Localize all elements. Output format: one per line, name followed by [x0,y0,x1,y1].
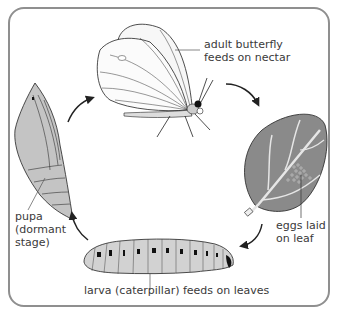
arrow-eggs-to-larva [242,224,262,246]
larva-label: larva (caterpillar) feeds on leaves [84,284,269,297]
arrow-pupa-to-adult [68,98,92,122]
eggs-label-line-2: on leaf [276,232,326,245]
larva-label-line-1: larva (caterpillar) feeds on leaves [84,284,269,297]
adult-label-line-2: feeds on nectar [204,51,290,64]
pupa-label-line-2: (dormant [15,223,66,236]
pupa-label-line-1: pupa [15,210,66,223]
pupa-label-line-3: stage) [15,236,66,249]
adult-label-line-1: adult butterfly [204,38,290,51]
larva-caterpillar-illustration [84,239,233,274]
pupa-chrysalis-illustration [15,83,73,220]
arrow-larva-to-pupa [72,214,88,240]
eggs-label-line-1: eggs laid [276,219,326,232]
adult-butterfly-illustration [97,24,213,137]
pupa-label: pupa (dormant stage) [15,210,66,249]
adult-label: adult butterfly feeds on nectar [204,38,290,64]
eggs-label: eggs laid on leaf [276,219,326,245]
arrow-adult-to-eggs [226,84,258,104]
leaf-with-eggs-illustration [244,114,327,216]
